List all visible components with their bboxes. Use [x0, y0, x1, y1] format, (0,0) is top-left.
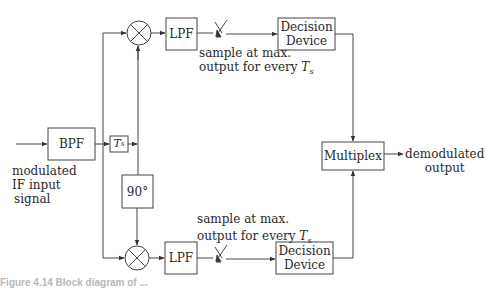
top-sample-note: sample at max. output for every Ts	[199, 46, 313, 79]
output-label: demodulated output	[405, 147, 484, 175]
bottom-lpf-label: LPF	[165, 242, 197, 274]
figure-caption: Figure 4.14 Block diagram of ...	[0, 277, 148, 288]
bottom-sample-note: sample at max. output for every Ts	[197, 211, 311, 249]
top-lpf-label: LPF	[166, 18, 197, 50]
phase-shift-label: 90°	[122, 175, 153, 208]
delay-label: Ts	[110, 136, 128, 152]
bpf-label: BPF	[48, 128, 95, 160]
input-signal-label: modulated IF input signal	[12, 164, 77, 206]
multiplex-label: Multiplex	[322, 142, 384, 170]
